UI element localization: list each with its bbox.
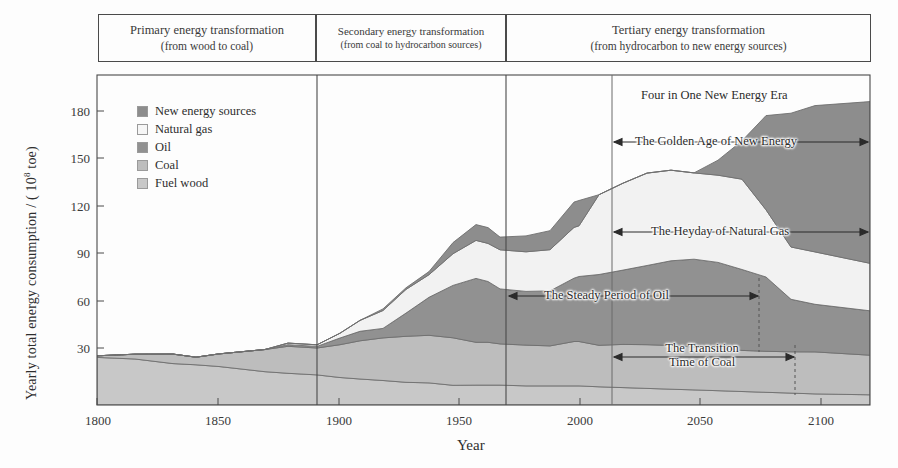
era-header-primary: Primary energy transformation (from wood… bbox=[98, 14, 316, 62]
annotation-transition-time-of-coal-line2: Time of Coal bbox=[648, 355, 756, 369]
x-tick-1850: 1850 bbox=[188, 413, 248, 429]
era-header-tertiary: Tertiary energy transformation (from hyd… bbox=[506, 14, 871, 62]
x-tick-2000: 2000 bbox=[550, 413, 610, 429]
annotation-transition-time-of-coal-line1: The Transition bbox=[648, 341, 756, 355]
annotation-four-in-one-new-energy-era: Four in One New Energy Era bbox=[641, 88, 788, 103]
x-tick-2050: 2050 bbox=[670, 413, 730, 429]
y-tick-180: 180 bbox=[56, 104, 90, 120]
legend-item-fuel-wood[interactable]: Fuel wood bbox=[137, 174, 256, 192]
x-tick-2100: 2100 bbox=[791, 413, 851, 429]
y-axis-title-text: Yearly total energy consumption / ( 10 bbox=[24, 177, 39, 400]
y-tick-marks bbox=[97, 111, 104, 348]
x-tick-1900: 1900 bbox=[309, 413, 369, 429]
annotation-transition-time-of-coal: The Transition Time of Coal bbox=[648, 341, 756, 370]
legend-label-natural-gas: Natural gas bbox=[155, 122, 212, 137]
legend-swatch-new-energy-sources bbox=[137, 106, 148, 117]
era-header-secondary-line2: (from coal to hydrocarbon sources) bbox=[340, 39, 481, 52]
legend-swatch-oil bbox=[137, 142, 148, 153]
legend-label-oil: Oil bbox=[155, 140, 171, 155]
legend-swatch-coal bbox=[137, 160, 148, 171]
legend-item-new-energy-sources[interactable]: New energy sources bbox=[137, 102, 256, 120]
chart-figure: Primary energy transformation (from wood… bbox=[0, 0, 898, 468]
era-header-tertiary-line2: (from hydrocarbon to new energy sources) bbox=[590, 39, 786, 53]
legend-item-oil[interactable]: Oil bbox=[137, 138, 256, 156]
annotation-golden-age-of-new-energy: The Golden Age of New Energy bbox=[635, 134, 797, 149]
annotation-steady-period-of-oil: The Steady Period of Oil bbox=[544, 288, 669, 303]
legend-label-fuel-wood: Fuel wood bbox=[155, 176, 208, 191]
era-header-primary-line2: (from wood to coal) bbox=[161, 39, 253, 53]
legend-label-new-energy-sources: New energy sources bbox=[155, 104, 256, 119]
era-header-secondary-line1: Secondary energy transformation bbox=[338, 25, 484, 39]
y-axis-title: Yearly total energy consumption / ( 108 … bbox=[22, 146, 40, 400]
legend-swatch-fuel-wood bbox=[137, 178, 148, 189]
y-tick-120: 120 bbox=[56, 199, 90, 215]
y-tick-150: 150 bbox=[56, 151, 90, 167]
x-tick-1950: 1950 bbox=[429, 413, 489, 429]
y-axis-title-tail: toe) bbox=[24, 146, 39, 172]
area-natural-gas bbox=[97, 170, 870, 357]
annotation-arrows bbox=[509, 139, 868, 361]
era-header-tertiary-line1: Tertiary energy transformation bbox=[612, 23, 765, 39]
legend-swatch-natural-gas bbox=[137, 124, 148, 135]
x-tick-1800: 1800 bbox=[68, 413, 128, 429]
legend-label-coal: Coal bbox=[155, 158, 179, 173]
legend: New energy sources Natural gas Oil Coal … bbox=[137, 102, 256, 192]
x-tick-marks bbox=[97, 398, 821, 405]
y-tick-90: 90 bbox=[56, 246, 90, 262]
y-axis-title-exponent: 8 bbox=[22, 172, 32, 177]
era-header-secondary: Secondary energy transformation (from co… bbox=[316, 14, 506, 62]
x-axis-title: Year bbox=[457, 437, 485, 454]
era-header-primary-line1: Primary energy transformation bbox=[130, 23, 284, 39]
annotation-heyday-of-natural-gas: The Heyday of Natural Gas bbox=[651, 224, 789, 239]
y-tick-60: 60 bbox=[56, 294, 90, 310]
y-tick-30: 30 bbox=[56, 341, 90, 357]
legend-item-coal[interactable]: Coal bbox=[137, 156, 256, 174]
legend-item-natural-gas[interactable]: Natural gas bbox=[137, 120, 256, 138]
